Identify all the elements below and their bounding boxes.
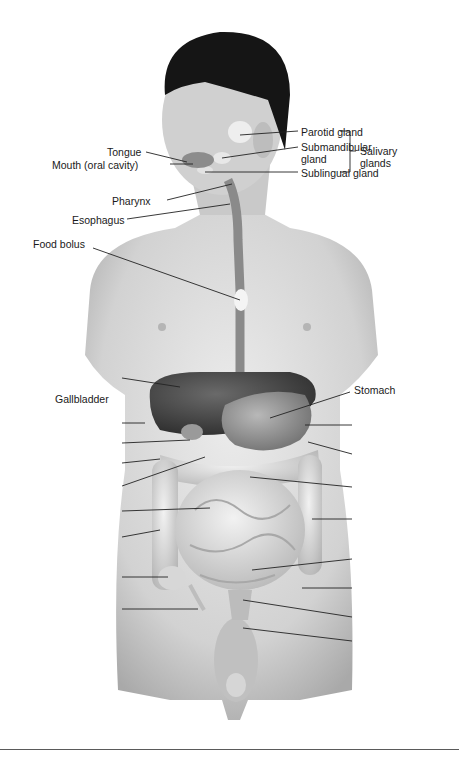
- label-tongue: Tongue: [107, 146, 141, 158]
- digestive-system-illustration: [0, 0, 459, 759]
- label-parotid-gland: Parotid gland: [301, 126, 363, 138]
- label-salivary-line2: glands: [360, 157, 391, 169]
- label-submandibular-line2: gland: [301, 153, 327, 165]
- label-pharynx: Pharynx: [112, 195, 151, 207]
- label-mouth: Mouth (oral cavity): [52, 159, 138, 171]
- label-food-bolus: Food bolus: [33, 238, 85, 250]
- label-esophagus: Esophagus: [72, 214, 125, 226]
- label-stomach: Stomach: [354, 384, 395, 396]
- bottom-divider: [0, 749, 459, 750]
- label-salivary-line1: Salivary: [360, 145, 397, 157]
- label-gallbladder: Gallbladder: [55, 393, 109, 405]
- parotid-gland: [228, 121, 252, 143]
